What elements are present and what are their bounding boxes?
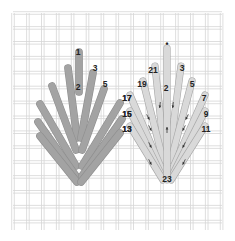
stitch-number-label: 1 — [76, 47, 81, 57]
stitch-number-label: 2 — [164, 83, 169, 93]
right-leaf-stitch — [130, 48, 205, 180]
stitch-number-label: 15 — [122, 109, 132, 119]
stitch-number-label: 21 — [148, 65, 158, 75]
stitch-number-label: 3 — [180, 63, 185, 73]
stitch-number-label: 23 — [162, 174, 172, 184]
stitch-number-label: 5 — [190, 79, 195, 89]
leaf-stitch-diagram: 1235171513 •2123195177159131123 — [0, 0, 235, 241]
stitch-number-label: 5 — [103, 79, 108, 89]
stitch-number-label: 19 — [137, 79, 147, 89]
stitch-number-label: 7 — [202, 93, 207, 103]
stitch-number-label: • — [166, 39, 169, 49]
stitch-number-label: 9 — [204, 109, 209, 119]
stitch-number-label: 13 — [122, 124, 132, 134]
stitch-number-label: 3 — [93, 63, 98, 73]
stitch-number-label: 17 — [122, 93, 132, 103]
stitch-number-label: 11 — [202, 124, 211, 134]
stitch-number-label: 2 — [76, 82, 81, 92]
